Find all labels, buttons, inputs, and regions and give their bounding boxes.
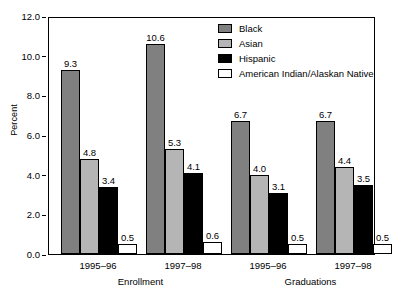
y-axis-tick: 6.0 (0, 130, 46, 142)
bar[interactable] (250, 175, 269, 254)
y-axis-tick-label: 8.0 (27, 90, 40, 102)
chart-legend: BlackAsianHispanicAmerican Indian/Alaska… (218, 21, 374, 81)
bar[interactable] (288, 244, 307, 254)
bar[interactable] (316, 121, 335, 254)
y-axis-tick: 10.0 (0, 51, 46, 63)
bar-group: 10.65.34.10.6 (146, 18, 222, 254)
x-axis-group-label: 1995–96 (58, 260, 138, 271)
bar-value-label: 4.0 (253, 163, 266, 174)
bar[interactable] (373, 244, 392, 254)
bar-value-label: 0.6 (206, 230, 219, 241)
x-axis-group-label: 1997–98 (313, 260, 393, 271)
y-axis-tick-mark (42, 56, 46, 57)
bar[interactable] (269, 193, 288, 254)
bar-value-label: 3.5 (357, 173, 370, 184)
x-axis-section-label: Graduations (256, 276, 366, 287)
y-axis-tick: 2.0 (0, 209, 46, 221)
bar-value-label: 6.7 (319, 109, 332, 120)
y-axis-tick-mark (42, 255, 46, 256)
bar-value-label: 0.5 (121, 232, 134, 243)
bar-value-label: 9.3 (64, 58, 77, 69)
bar[interactable] (99, 187, 118, 254)
y-axis-tick-label: 6.0 (27, 130, 40, 142)
legend-swatch (218, 69, 232, 78)
y-axis-tick: 12.0 (0, 11, 46, 23)
y-axis-title: Percent (9, 75, 19, 165)
bar-chart: Percent 0.02.04.06.08.010.012.0 9.34.83.… (0, 0, 394, 304)
bar-value-label: 4.1 (187, 161, 200, 172)
bar[interactable] (146, 44, 165, 254)
bar[interactable] (118, 244, 137, 254)
y-axis-tick-mark (42, 96, 46, 97)
bar[interactable] (203, 242, 222, 254)
bar[interactable] (80, 159, 99, 254)
legend-swatch (218, 54, 232, 63)
y-axis-tick-label: 4.0 (27, 170, 40, 182)
bar-value-label: 6.7 (234, 109, 247, 120)
legend-label: American Indian/Alaskan Native (239, 68, 374, 79)
y-axis-tick-mark (42, 215, 46, 216)
legend-label: Hispanic (239, 53, 275, 64)
legend-label: Black (239, 23, 262, 34)
legend-item[interactable]: Hispanic (218, 51, 374, 66)
bar-value-label: 3.4 (102, 175, 115, 186)
bar-value-label: 0.5 (291, 232, 304, 243)
y-axis-tick: 8.0 (0, 90, 46, 102)
x-axis-group-label: 1995–96 (228, 260, 308, 271)
legend-swatch (218, 39, 232, 48)
bar[interactable] (165, 149, 184, 254)
bar[interactable] (61, 70, 80, 254)
bar-group: 9.34.83.40.5 (61, 18, 137, 254)
y-axis-tick-mark (42, 136, 46, 137)
bar[interactable] (354, 185, 373, 254)
bar-value-label: 10.6 (146, 32, 165, 43)
bar[interactable] (184, 173, 203, 254)
bar[interactable] (335, 167, 354, 254)
bar-value-label: 4.4 (338, 155, 351, 166)
y-axis-tick: 0.0 (0, 249, 46, 261)
legend-item[interactable]: American Indian/Alaskan Native (218, 66, 374, 81)
x-axis-section-label: Enrollment (86, 276, 196, 287)
bar[interactable] (231, 121, 250, 254)
legend-item[interactable]: Asian (218, 36, 374, 51)
y-axis-tick: 4.0 (0, 170, 46, 182)
y-axis-tick-label: 10.0 (22, 51, 41, 63)
bar-value-label: 3.1 (272, 181, 285, 192)
y-axis-tick-label: 2.0 (27, 209, 40, 221)
x-axis-group-label: 1997–98 (143, 260, 223, 271)
bar-value-label: 4.8 (83, 147, 96, 158)
y-axis-tick-mark (42, 175, 46, 176)
bar-value-label: 0.5 (376, 232, 389, 243)
legend-label: Asian (239, 38, 263, 49)
y-axis-tick-label: 12.0 (22, 11, 41, 23)
y-axis-tick-label: 0.0 (27, 249, 40, 261)
legend-swatch (218, 24, 232, 33)
bar-value-label: 5.3 (168, 137, 181, 148)
y-axis-tick-mark (42, 17, 46, 18)
legend-item[interactable]: Black (218, 21, 374, 36)
